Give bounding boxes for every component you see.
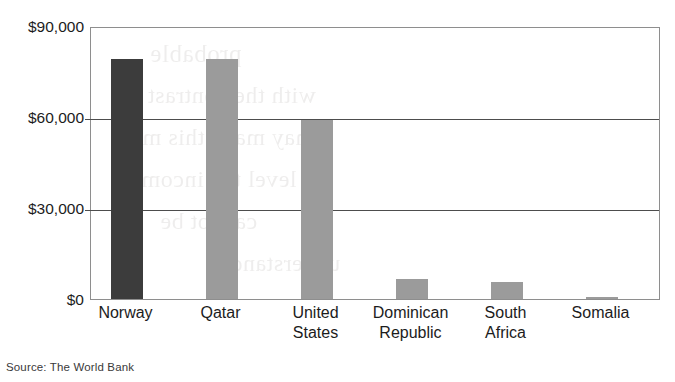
x-axis: NorwayQatarUnitedStatesDominicanRepublic… xyxy=(90,303,660,355)
bar-dominican-republic xyxy=(396,279,428,299)
bar-united-states xyxy=(301,120,333,299)
gridline-30000 xyxy=(91,210,659,211)
plot-area xyxy=(90,27,660,300)
bar-south-africa xyxy=(491,282,523,299)
y-tick-label-30000: $30,000 xyxy=(28,201,84,217)
tick-mark-30000 xyxy=(85,210,91,211)
gridline-60000 xyxy=(91,119,659,120)
x-tick-label-line: Somalia xyxy=(541,303,661,323)
y-axis: $0$30,000$60,000$90,000 xyxy=(0,0,84,382)
bar-somalia xyxy=(586,297,618,299)
y-tick-label-90000: $90,000 xyxy=(28,19,84,35)
bar-qatar xyxy=(206,59,238,299)
x-tick-label-somalia: Somalia xyxy=(541,303,661,323)
tick-mark-60000 xyxy=(85,119,91,120)
bar-norway xyxy=(111,59,143,299)
source-caption: Source: The World Bank xyxy=(6,361,134,373)
y-tick-label-60000: $60,000 xyxy=(28,110,84,126)
x-tick-label-line: Africa xyxy=(446,323,566,343)
bar-chart-figure: $0$30,000$60,000$90,000 NorwayQatarUnite… xyxy=(0,0,675,382)
